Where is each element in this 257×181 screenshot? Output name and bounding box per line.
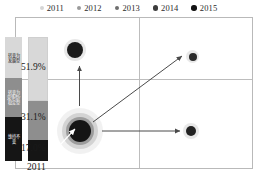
plot-frame	[15, 17, 253, 169]
category-segment-label: 转变为竞争型/稳定型	[5, 90, 22, 105]
legend-dot-icon	[115, 6, 120, 11]
category-segment-label: 转变为发展型	[5, 53, 22, 63]
legend-item-2013[interactable]: 2013	[115, 4, 140, 13]
category-segment-competitive-stable: 转变为竞争型/稳定型	[5, 78, 22, 117]
chart-legend: 2011 2012 2013 2014 2015	[0, 1, 257, 15]
legend-label: 2013	[122, 4, 139, 13]
legend-item-2012[interactable]: 2012	[77, 4, 102, 13]
legend-dot-icon	[153, 5, 158, 10]
legend-dot-icon	[191, 5, 196, 10]
legend-label: 2015	[200, 4, 217, 13]
legend-item-2015[interactable]: 2015	[191, 4, 217, 13]
legend-label: 2012	[84, 4, 101, 13]
legend-item-2011[interactable]: 2011	[40, 4, 64, 13]
legend-dot-icon	[40, 6, 44, 10]
bubble-core	[67, 42, 83, 58]
source-bubble-core	[69, 120, 91, 142]
bar-value-competitive-stable: 31.1%	[21, 113, 46, 123]
category-segment-label: 维持不变	[5, 134, 22, 144]
legend-dot-icon	[77, 6, 81, 10]
legend-label: 2014	[161, 4, 178, 13]
source-bubble[interactable]	[57, 108, 103, 154]
bubble-core	[186, 126, 196, 136]
category-segment-development: 转变为发展型	[5, 37, 22, 78]
category-segment-unchanged: 维持不变	[5, 117, 22, 161]
category-label-column: 转变为发展型 转变为竞争型/稳定型 维持不变	[5, 37, 22, 161]
gridline-horizontal	[16, 79, 252, 80]
legend-label: 2011	[47, 4, 64, 13]
chart-canvas: 2011 2012 2013 2014 2015 转变为发展型 转变为竞争型/稳…	[0, 0, 257, 181]
bubble-core	[189, 53, 197, 61]
bar-value-unchanged: 17.0%	[21, 144, 46, 154]
bubble-top-right[interactable]	[186, 50, 199, 63]
legend-item-2014[interactable]: 2014	[153, 4, 179, 13]
bar-axis-label-2011: 2011	[27, 163, 46, 173]
bubble-mid-right[interactable]	[183, 123, 199, 139]
gridline-vertical	[139, 18, 140, 168]
bar-value-development: 51.9%	[21, 63, 46, 73]
bubble-top-left[interactable]	[64, 39, 86, 61]
